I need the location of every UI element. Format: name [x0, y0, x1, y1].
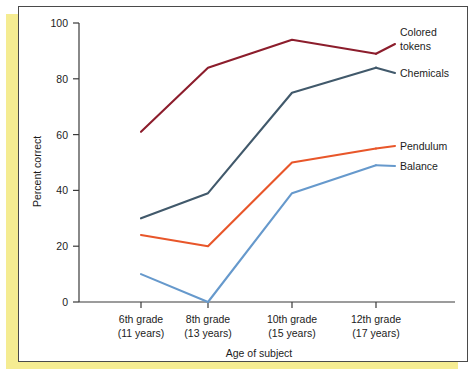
series-line-pendulum: [141, 149, 376, 247]
x-tick-label-age: (15 years): [268, 327, 315, 339]
series-label-balance: Balance: [400, 160, 438, 172]
series-label-colored-tokens-line2: tokens: [400, 40, 431, 52]
series-line-colored-tokens: [141, 40, 376, 132]
x-tick-label-grade: 8th grade: [186, 313, 231, 325]
line-chart: 100 80 60 40 20 0 Percent correct 6th gr…: [19, 7, 467, 361]
y-tick-label: 20: [56, 240, 68, 252]
x-axis-tick-labels: 6th grade (11 years) 8th grade (13 years…: [118, 313, 402, 339]
x-tick-label-grade: 10th grade: [267, 313, 317, 325]
x-tick-label-age: (11 years): [118, 327, 165, 339]
leader-line-colored-tokens: [376, 44, 395, 54]
x-axis-ticks: [141, 302, 376, 308]
y-axis-title: Percent correct: [31, 136, 43, 207]
leader-line-pendulum: [376, 146, 395, 149]
y-tick-label: 40: [56, 184, 68, 196]
series-label-chemicals: Chemicals: [400, 67, 449, 79]
y-axis-ticks: [73, 23, 79, 302]
y-tick-label: 100: [50, 17, 68, 29]
x-axis-title: Age of subject: [226, 347, 293, 359]
y-tick-label: 80: [56, 73, 68, 85]
leader-line-balance: [376, 165, 395, 166]
x-tick-label-age: (13 years): [184, 327, 231, 339]
series-label-colored-tokens-line1: Colored: [400, 26, 437, 38]
x-tick-label-grade: 12th grade: [351, 313, 401, 325]
series-label-pendulum: Pendulum: [400, 140, 448, 152]
y-tick-label: 0: [62, 296, 68, 308]
chart-panel: 100 80 60 40 20 0 Percent correct 6th gr…: [18, 6, 468, 362]
series-labels: Colored tokens Chemicals Pendulum Balanc…: [400, 26, 449, 172]
x-tick-label-grade: 6th grade: [119, 313, 164, 325]
series-line-balance: [141, 165, 376, 302]
leader-line-chemicals: [376, 68, 395, 73]
y-axis-tick-labels: 100 80 60 40 20 0: [50, 17, 68, 308]
x-tick-label-age: (17 years): [352, 327, 399, 339]
y-tick-label: 60: [56, 129, 68, 141]
